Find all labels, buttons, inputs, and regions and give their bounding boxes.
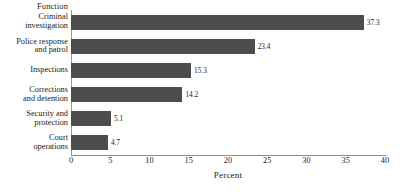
- category-label: Police response and patrol: [0, 38, 68, 55]
- x-tick-label: 40: [381, 156, 389, 165]
- x-tick-label: 10: [145, 156, 153, 165]
- bar-row: Police response and patrol23.4: [0, 34, 405, 58]
- bar-chart: Function Criminal investigation37.3Polic…: [0, 0, 405, 195]
- bar-value-label: 5.1: [114, 114, 123, 123]
- x-axis-ticks: 0510152025303540: [0, 156, 405, 170]
- x-tick-label: 30: [302, 156, 310, 165]
- bar-track: 23.4: [71, 34, 405, 58]
- x-tick-label: 0: [69, 156, 73, 165]
- x-tick-label: 20: [224, 156, 232, 165]
- bar: [71, 87, 182, 102]
- x-tick-label: 15: [185, 156, 193, 165]
- bar-row: Criminal investigation37.3: [0, 10, 405, 34]
- bar: [71, 15, 364, 30]
- bar-row: Security and protection5.1: [0, 107, 405, 131]
- x-tick-label: 5: [108, 156, 112, 165]
- category-label: Corrections and detention: [0, 86, 68, 103]
- x-tick-label: 25: [263, 156, 271, 165]
- bar-value-label: 4.7: [111, 138, 120, 147]
- bar-track: 14.2: [71, 83, 405, 107]
- bar: [71, 111, 111, 126]
- bar-rows: Criminal investigation37.3Police respons…: [0, 10, 405, 155]
- bar-track: 4.7: [71, 131, 405, 155]
- bar-value-label: 15.3: [194, 66, 207, 75]
- bar-value-label: 37.3: [367, 18, 380, 27]
- bar-track: 37.3: [71, 10, 405, 34]
- x-tick-label: 35: [342, 156, 350, 165]
- bar-row: Inspections15.3: [0, 58, 405, 82]
- bar-track: 15.3: [71, 58, 405, 82]
- category-label: Criminal investigation: [0, 13, 68, 30]
- bar-row: Corrections and detention14.2: [0, 83, 405, 107]
- category-label: Court operations: [0, 134, 68, 151]
- category-label: Inspections: [0, 66, 68, 75]
- x-axis-title: Percent: [71, 170, 385, 180]
- bar-value-label: 23.4: [258, 42, 271, 51]
- bar-row: Court operations4.7: [0, 131, 405, 155]
- category-label: Security and protection: [0, 110, 68, 127]
- bar: [71, 135, 108, 150]
- bar-value-label: 14.2: [185, 90, 198, 99]
- bar: [71, 63, 191, 78]
- bar-track: 5.1: [71, 107, 405, 131]
- bar: [71, 39, 255, 54]
